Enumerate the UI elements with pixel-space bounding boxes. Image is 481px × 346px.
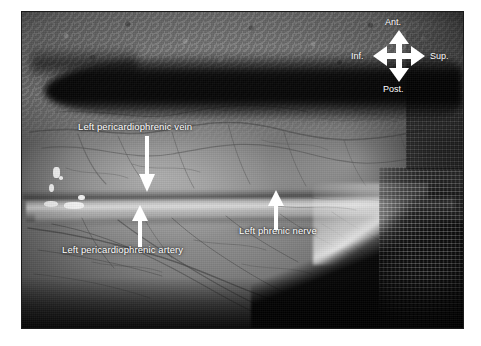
anatomical-photograph [22, 12, 463, 328]
figure-root: Left pericardiophrenic vein Left pericar… [0, 0, 481, 346]
photo-vignette [22, 12, 463, 328]
